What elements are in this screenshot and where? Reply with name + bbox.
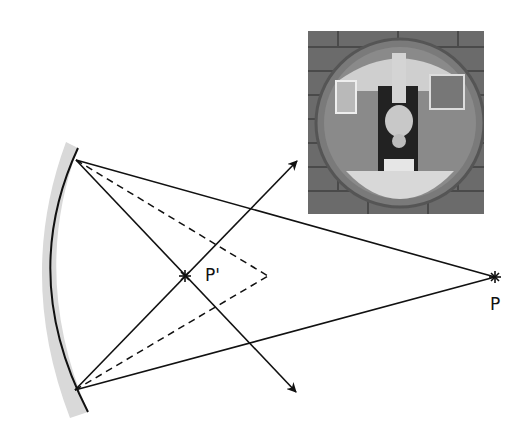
image-point-label: P'	[205, 267, 220, 284]
object-point-marker	[489, 271, 501, 283]
ray-diagram: P' P	[0, 0, 532, 438]
convex-mirror-photo	[308, 31, 484, 214]
mirror-photo-illustration	[308, 31, 484, 214]
dashed-line-upper	[76, 160, 268, 276]
incident-ray-lower	[75, 277, 495, 390]
object-point-label: P	[490, 296, 500, 313]
